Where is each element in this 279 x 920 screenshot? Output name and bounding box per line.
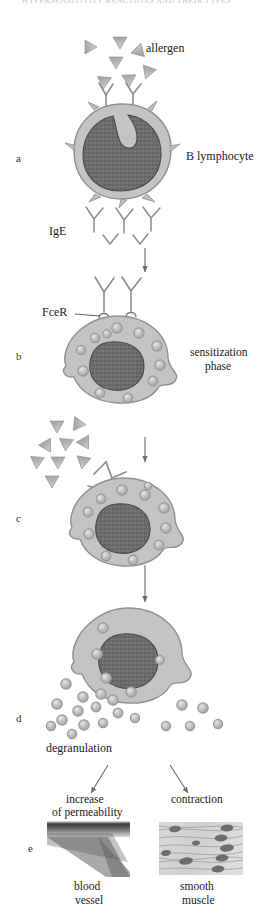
figure-canvas bbox=[0, 0, 279, 920]
label-muscle-line1: smooth bbox=[180, 880, 214, 893]
label-muscle-line2: muscle bbox=[182, 894, 215, 907]
panel-d-group bbox=[46, 608, 222, 793]
fcer-leader-line bbox=[75, 314, 100, 316]
panel-letter-c: c bbox=[16, 512, 21, 524]
ige-antibodies-free bbox=[86, 207, 160, 244]
panel-letter-e: e bbox=[28, 842, 33, 854]
label-contraction: contraction bbox=[171, 793, 223, 806]
label-blood-line2: vessel bbox=[75, 894, 103, 907]
arrow-d-to-contraction bbox=[170, 765, 188, 793]
allergen-cluster-panel-c bbox=[29, 417, 94, 488]
label-increase-line1: increase bbox=[66, 793, 104, 806]
label-b-lymphocyte: B lymphocyte bbox=[186, 150, 254, 164]
label-ige: IgE bbox=[49, 225, 66, 239]
blood-vessel-image bbox=[47, 820, 130, 877]
ige-bound-panel-b bbox=[95, 277, 141, 312]
label-sensitization-line1: sensitization bbox=[190, 346, 248, 359]
panel-letter-a: a bbox=[16, 152, 21, 164]
panel-e-group bbox=[47, 820, 243, 877]
label-increase-line2: of permeability bbox=[52, 806, 123, 819]
hypersensitivity-figure: HYPERSENSITIVITY REACTIONS AND THEIR TYP… bbox=[0, 0, 279, 920]
label-sensitization-line2: phase bbox=[205, 360, 231, 373]
panel-c-group bbox=[29, 417, 183, 602]
label-allergen: allergen bbox=[146, 42, 184, 56]
panel-letter-d: d bbox=[16, 712, 22, 724]
label-degranulation: degranulation bbox=[46, 742, 112, 756]
panel-b-group bbox=[64, 277, 177, 462]
panel-letter-b: b bbox=[16, 350, 22, 362]
label-blood-line1: blood bbox=[74, 880, 100, 893]
page-header-fragment: HYPERSENSITIVITY REACTIONS AND THEIR TYP… bbox=[22, 0, 262, 7]
panel-a-group bbox=[65, 37, 180, 272]
smooth-muscle-image bbox=[159, 822, 243, 875]
mast-cell-nucleus-c bbox=[96, 504, 150, 554]
mast-cell-nucleus-b bbox=[90, 342, 144, 391]
label-fcer: FceR bbox=[42, 306, 67, 320]
arrow-d-to-permeability bbox=[91, 765, 108, 793]
